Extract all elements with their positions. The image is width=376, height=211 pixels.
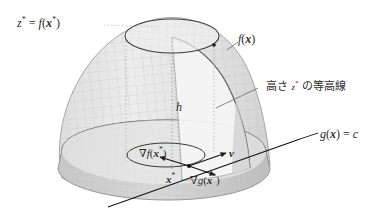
label-x-star: x*	[166, 172, 175, 185]
label-z-star-value: z* = f(x*)	[17, 16, 60, 29]
diagram-svg	[0, 0, 376, 211]
label-f-of-x: f(x)	[238, 33, 255, 45]
label-grad-g: ∇g(x*)	[190, 173, 220, 186]
label-contour-note: 高さ z* の等高線	[266, 80, 346, 92]
top-contour-mesh	[125, 19, 219, 53]
label-height-h: h	[176, 101, 182, 113]
label-grad-f: ∇f(x*)	[139, 146, 166, 159]
tangency-point-dot	[212, 43, 216, 47]
constraint-line-leader	[300, 133, 318, 139]
top-contour	[125, 19, 219, 53]
label-constraint: g(x) = c	[320, 128, 358, 140]
label-v-vector: v	[229, 148, 234, 159]
figure-canvas: z* = f(x*) f(x) 高さ z* の等高線 g(x) = c h ∇f…	[0, 0, 376, 211]
